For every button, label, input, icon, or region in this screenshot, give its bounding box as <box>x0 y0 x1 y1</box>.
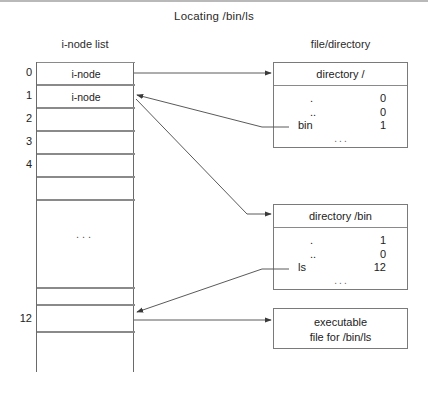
arrow-bin-entry-to-inode1 <box>137 95 289 127</box>
arrow-layer <box>0 0 428 394</box>
arrow-ls-entry-to-inode12 <box>137 269 289 312</box>
figure-canvas: Locating /bin/ls i-node list file/direct… <box>0 0 428 394</box>
arrow-inode1-to-bin-dir <box>136 99 271 214</box>
